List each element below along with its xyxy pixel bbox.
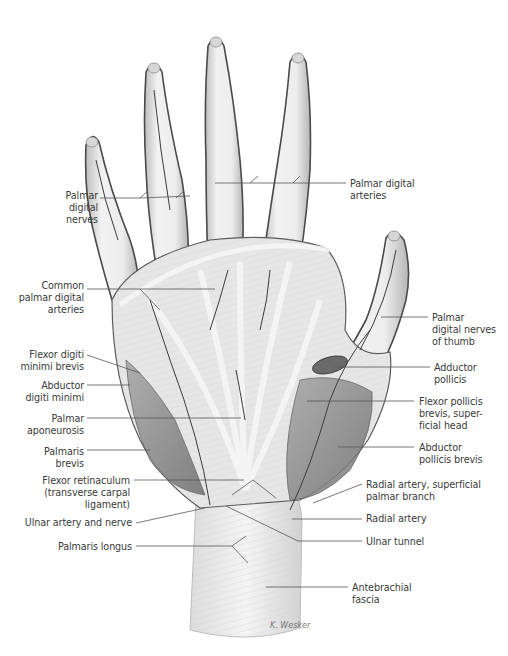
middle-finger bbox=[205, 38, 243, 266]
forearm bbox=[190, 490, 302, 637]
label-common-palmar-digital-arteries: Common palmar digital arteries bbox=[4, 280, 84, 316]
label-flexor-retinaculum: Flexor retinaculum (transverse carpal li… bbox=[4, 475, 130, 511]
label-ulnar-artery-and-nerve: Ulnar artery and nerve bbox=[4, 517, 132, 529]
label-palmaris-longus: Palmaris longus bbox=[4, 541, 132, 553]
label-ulnar-tunnel: Ulnar tunnel bbox=[366, 536, 508, 548]
label-flexor-pollicis-brevis: Flexor pollicis brevis, super- ficial he… bbox=[419, 396, 508, 432]
label-palmar-aponeurosis: Palmar aponeurosis bbox=[4, 413, 84, 437]
label-abductor-digiti-minimi: Abductor digiti minimi bbox=[4, 380, 84, 404]
label-abductor-pollicis-brevis: Abductor pollicis brevis bbox=[419, 442, 508, 466]
leader-line-palmar-digital-arteries-b bbox=[250, 176, 258, 183]
label-radial-artery: Radial artery bbox=[366, 513, 508, 525]
label-palmar-digital-nerves: Palmar digital nerves bbox=[30, 190, 98, 226]
label-adductor-pollicis: Adductor pollicis bbox=[434, 362, 508, 386]
label-flexor-digiti-minimi-brevis: Flexor digiti minimi brevis bbox=[4, 349, 84, 373]
artist-signature: K. Wesker bbox=[270, 621, 311, 630]
label-palmar-digital-nerves-of-thumb: Palmar digital nerves of thumb bbox=[432, 312, 508, 348]
label-palmar-digital-arteries: Palmar digital arteries bbox=[350, 178, 460, 202]
ring-finger bbox=[145, 64, 189, 278]
label-radial-artery-superficial-palmar-branch: Radial artery, superficial palmar branch bbox=[366, 479, 508, 503]
label-palmaris-brevis: Palmaris brevis bbox=[4, 446, 84, 470]
label-antebrachial-fascia: Antebrachial fascia bbox=[352, 582, 472, 606]
